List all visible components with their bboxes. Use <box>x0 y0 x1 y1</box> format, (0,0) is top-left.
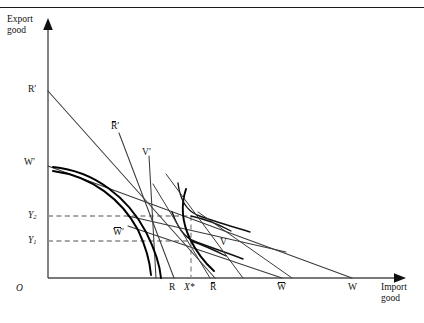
indifference-curve-upper <box>178 183 250 232</box>
curve-label-R-prime-mark: ′ <box>34 84 36 94</box>
price-line-R-prime <box>48 91 215 278</box>
curve-label-W-prime-base: W <box>24 157 33 167</box>
y-tick-sub-Y1: 1 <box>33 238 36 245</box>
curve-label-V-prime-mark: ′ <box>149 147 151 157</box>
y-tick-label-Y1: Y1 <box>28 235 37 246</box>
curve-label-R-prime: R′ <box>28 84 36 95</box>
curve-label-W-prime: W′ <box>24 157 35 168</box>
x-axis-title-line2: good <box>381 293 400 303</box>
x-tick-label-R: R <box>169 282 175 293</box>
curve-label-R-bar-prime-mark: ′ <box>117 121 119 131</box>
x-tick-label-W-bar: W <box>277 282 286 293</box>
curve-label-R-bar-prime: R′ <box>111 121 119 132</box>
y-axis-title: Export good <box>7 14 33 36</box>
price-line-V-prime <box>149 156 156 278</box>
economics-diagram-figure: Export good Import good O Y2 Y1 R X* R W… <box>0 0 424 323</box>
curve-label-R-bar-prime-base: R <box>111 121 117 132</box>
x-tick-label-R-bar: R <box>210 282 216 293</box>
diagram-canvas <box>0 0 424 323</box>
curve-label-V: V <box>220 237 227 248</box>
ppf-curve-left-inner <box>53 171 151 275</box>
y-tick-label-Y2: Y2 <box>28 210 37 221</box>
curve-label-W-bar-prime-base: W <box>113 227 122 238</box>
x-axis-title-line1: Import <box>381 282 407 292</box>
y-axis-title-line2: good <box>7 25 26 35</box>
x-tick-W-bar-glyph: W <box>277 282 286 293</box>
y-axis-title-line1: Export <box>7 14 33 24</box>
indifference-curve-upper-branch <box>191 216 231 231</box>
curve-label-W-bar-prime: W′ <box>113 227 124 238</box>
curve-label-V-prime-base: V <box>142 147 149 157</box>
origin-label: O <box>16 283 23 294</box>
ppf-curve-left-outer <box>53 167 161 278</box>
x-tick-label-Xstar: X* <box>184 282 195 293</box>
curve-label-W-bar-prime-mark: ′ <box>122 227 124 237</box>
frontier-curves-group <box>53 167 214 278</box>
x-tick-R-bar-glyph: R <box>210 282 216 293</box>
curve-label-V-prime: V′ <box>142 147 151 158</box>
y-tick-sub-Y2: 2 <box>33 213 36 220</box>
x-axis-title: Import good <box>381 282 407 304</box>
curve-label-W-prime-mark: ′ <box>33 157 35 167</box>
x-tick-label-W: W <box>348 282 357 293</box>
y-axis-arrowhead <box>43 18 53 30</box>
